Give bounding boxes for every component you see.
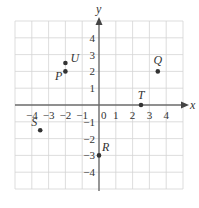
- coordinate-plane: x y 0 −4−3−2−112344321−1−2−3−4 UPQTSR: [0, 0, 199, 208]
- axes: x y 0: [15, 2, 196, 191]
- y-tick-label: −2: [83, 133, 95, 145]
- y-tick-label: −4: [83, 166, 95, 178]
- point-label: P: [54, 69, 63, 83]
- x-tick-label: 3: [147, 109, 153, 121]
- x-axis-label: x: [189, 98, 196, 112]
- point-label: T: [138, 88, 146, 102]
- x-axis-arrow-icon: [181, 102, 189, 109]
- point-marker-icon: [97, 153, 102, 158]
- x-tick-label: −2: [60, 109, 72, 121]
- point-marker-icon: [38, 128, 43, 133]
- y-tick-label: −1: [83, 116, 95, 128]
- x-tick-label: −3: [43, 109, 55, 121]
- x-tick-label: 2: [130, 109, 136, 121]
- point-marker-icon: [139, 103, 144, 108]
- point-Q: Q: [153, 53, 162, 73]
- point-label: R: [101, 140, 110, 154]
- y-tick-label: −3: [83, 149, 95, 161]
- y-tick-label: 3: [90, 49, 96, 61]
- y-tick-label: 2: [90, 65, 96, 77]
- point-marker-icon: [156, 69, 161, 74]
- y-tick-label: 4: [90, 32, 96, 44]
- point-S: S: [31, 115, 42, 132]
- point-marker-icon: [63, 69, 68, 74]
- x-tick-label: 4: [163, 109, 169, 121]
- y-tick-label: 1: [90, 82, 96, 94]
- point-label: S: [31, 115, 37, 129]
- x-tick-label: 1: [113, 109, 119, 121]
- point-marker-icon: [63, 61, 68, 66]
- point-label: Q: [153, 53, 162, 67]
- point-label: U: [70, 51, 80, 65]
- origin-label: 0: [101, 109, 107, 121]
- y-axis-label: y: [95, 2, 102, 16]
